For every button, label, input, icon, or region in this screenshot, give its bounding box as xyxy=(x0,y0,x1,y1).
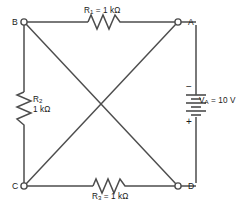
r2-line-1: R2 xyxy=(33,95,50,105)
node-marker-d xyxy=(175,183,181,189)
r2-line-2: 1 kΩ xyxy=(33,105,50,115)
battery-plus-sign: + xyxy=(186,117,192,127)
node-label-a: A xyxy=(188,17,194,27)
resistor-r2-label: R21 kΩ xyxy=(33,95,50,115)
resistor-r2-symbol xyxy=(17,92,31,128)
source-value: 10 V xyxy=(218,96,235,105)
node-marker-c xyxy=(21,183,27,189)
node-label-d: D xyxy=(188,181,194,191)
resistor-r1-label: R1 = 1 kΩ xyxy=(84,6,121,16)
resistor-r3-label: R3 = 1 kΩ xyxy=(92,192,129,202)
r1-equals: = xyxy=(93,6,103,15)
voltage-source-label: VA = 10 V xyxy=(199,96,236,106)
node-label-c: C xyxy=(12,181,18,191)
resistor-r3-symbol xyxy=(93,179,128,193)
r2-subscript: 2 xyxy=(39,97,42,104)
node-marker-a xyxy=(175,19,181,25)
node-label-b: B xyxy=(12,17,18,27)
source-equals: = xyxy=(209,96,219,105)
r3-value: 1 kΩ xyxy=(111,192,128,201)
circuit-diagram: R1 = 1 kΩ R21 kΩ R3 = 1 kΩ VA = 10 V − +… xyxy=(0,0,246,212)
resistor-r1-symbol xyxy=(88,15,123,29)
battery-minus-sign: − xyxy=(186,82,192,92)
r3-equals: = xyxy=(101,192,111,201)
r1-value: 1 kΩ xyxy=(103,6,120,15)
node-marker-b xyxy=(21,19,27,25)
